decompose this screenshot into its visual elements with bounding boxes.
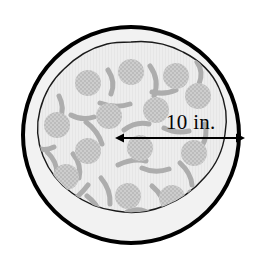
radius-dimension-label: 10 in.	[166, 110, 216, 134]
pizza-diagram-svg: 10 in.	[0, 0, 259, 267]
pepperoni	[96, 103, 122, 129]
figure-root: 10 in.	[0, 0, 259, 267]
pepperoni	[163, 63, 189, 89]
pepperoni	[118, 59, 144, 85]
pepperoni	[185, 83, 211, 109]
pepperoni	[75, 138, 101, 164]
pepperoni	[181, 140, 207, 166]
pepperoni	[75, 70, 101, 96]
pepperoni	[115, 183, 141, 209]
pepperoni	[44, 112, 70, 138]
